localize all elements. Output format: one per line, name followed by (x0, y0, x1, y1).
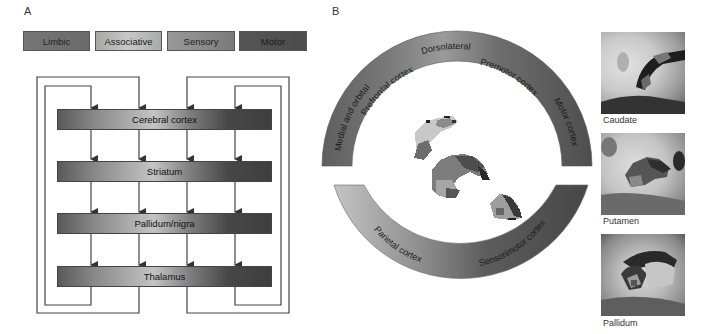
putamen-map (432, 154, 490, 198)
mri-putamen (601, 133, 685, 215)
cortical-arc-diagram: Medial and orbital Dorsolateral Motor co… (0, 0, 701, 334)
mri-pallidum (601, 234, 685, 316)
caption-putamen: Putamen (603, 216, 639, 226)
mri-caudate (601, 32, 685, 114)
caption-caudate: Caudate (603, 115, 637, 125)
pallidum-map (490, 194, 522, 220)
caudate-map (414, 116, 458, 160)
posterior-arc (334, 185, 588, 279)
caption-pallidum: Pallidum (603, 318, 638, 328)
